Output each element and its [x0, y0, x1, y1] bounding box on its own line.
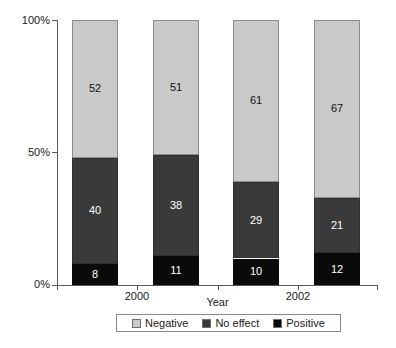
legend-swatch-positive-icon [273, 319, 282, 328]
bar-segment-positive[interactable]: 12 [314, 253, 360, 285]
bar-segment-no-effect[interactable]: 40 [72, 158, 118, 264]
bar-segment-positive[interactable]: 8 [72, 264, 118, 285]
x-tick-mark-0 [57, 285, 58, 290]
legend-swatch-no-effect-icon [202, 319, 211, 328]
bar-value-label: 67 [331, 103, 343, 114]
bar-value-label: 52 [89, 83, 101, 94]
bar-segment-no-effect[interactable]: 38 [153, 155, 199, 256]
bar-segment-no-effect[interactable]: 21 [314, 198, 360, 254]
y-axis-line [57, 20, 58, 286]
bar-value-label: 40 [89, 205, 101, 216]
bar-value-label: 8 [92, 269, 98, 280]
x-axis-title: Year [57, 296, 378, 308]
y-tick-mark-100 [52, 20, 57, 21]
bar-value-label: 21 [331, 220, 343, 231]
bar-value-label: 61 [250, 95, 262, 106]
bar-column[interactable]: 51 38 11 [153, 20, 199, 285]
y-axis-tick-labels: 100% 50% 0% [0, 20, 50, 286]
chart-legend: Negative No effect Positive [116, 314, 341, 332]
bar-segment-positive[interactable]: 11 [153, 256, 199, 285]
legend-swatch-negative-icon [132, 319, 141, 328]
bar-segment-negative[interactable]: 51 [153, 20, 199, 155]
bar-value-label: 10 [250, 266, 262, 277]
legend-item-positive[interactable]: Positive [273, 318, 325, 329]
legend-item-negative[interactable]: Negative [132, 318, 188, 329]
bar-segment-negative[interactable]: 61 [233, 20, 279, 182]
y-tick-label-100: 100% [22, 15, 50, 26]
x-tick-mark-4 [377, 285, 378, 290]
bar-value-label: 11 [170, 265, 181, 276]
stacked-bar-chart: 100% 50% 0% 52 40 8 51 [0, 0, 396, 348]
plot-area: 52 40 8 51 38 11 61 [57, 20, 378, 285]
legend-item-no-effect[interactable]: No effect [202, 318, 259, 329]
bar-segment-negative[interactable]: 52 [72, 20, 118, 158]
y-tick-label-0: 0% [34, 279, 50, 290]
legend-label: No effect [215, 318, 259, 329]
bar-segment-negative[interactable]: 67 [314, 20, 360, 198]
legend-label: Negative [145, 318, 188, 329]
y-tick-label-50: 50% [28, 147, 50, 158]
legend-label: Positive [286, 318, 325, 329]
x-tick-mark-2 [218, 285, 219, 290]
bar-column[interactable]: 67 21 12 [314, 20, 360, 285]
bar-column[interactable]: 61 29 10 [233, 20, 279, 285]
y-tick-mark-50 [52, 152, 57, 153]
bar-value-label: 38 [170, 200, 182, 211]
bar-value-label: 12 [331, 264, 343, 275]
bar-segment-positive[interactable]: 10 [233, 259, 279, 286]
bar-value-label: 29 [250, 215, 262, 226]
bar-segment-no-effect[interactable]: 29 [233, 182, 279, 259]
bar-column[interactable]: 52 40 8 [72, 20, 118, 285]
bar-value-label: 51 [170, 82, 182, 93]
